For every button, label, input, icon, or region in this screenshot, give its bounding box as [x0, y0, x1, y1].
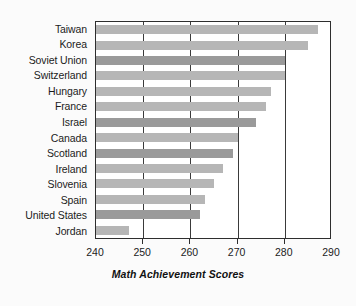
category-label: Taiwan — [0, 21, 92, 37]
bar-row — [96, 37, 330, 52]
category-label: Soviet Union — [0, 52, 92, 68]
x-tick-label: 240 — [86, 246, 104, 258]
bar — [96, 118, 256, 127]
bar-row — [96, 84, 330, 99]
bar — [96, 41, 308, 50]
bar-row — [96, 161, 330, 176]
x-axis-tick-labels: 240250260270280290 — [0, 246, 356, 262]
category-axis-labels: TaiwanKoreaSoviet UnionSwitzerlandHungar… — [0, 21, 92, 239]
x-tick-label: 250 — [133, 246, 151, 258]
plot-area — [95, 21, 331, 239]
bar — [96, 133, 238, 142]
x-tick-label: 260 — [181, 246, 199, 258]
x-axis-title: Math Achievement Scores — [0, 268, 356, 280]
bar-row — [96, 53, 330, 68]
bar-chart-figure: TaiwanKoreaSoviet UnionSwitzerlandHungar… — [0, 0, 356, 306]
bar-row — [96, 130, 330, 145]
category-label: Hungary — [0, 83, 92, 99]
bar-row — [96, 115, 330, 130]
bar — [96, 210, 200, 219]
x-tick — [284, 239, 285, 244]
category-label: Korea — [0, 37, 92, 53]
category-label: France — [0, 99, 92, 115]
category-label: Slovenia — [0, 177, 92, 193]
bar — [96, 25, 318, 34]
x-tick — [237, 239, 238, 244]
bar — [96, 149, 233, 158]
bar — [96, 102, 266, 111]
bar-row — [96, 222, 330, 237]
x-tick-label: 280 — [275, 246, 293, 258]
category-label: Spain — [0, 192, 92, 208]
bar-row — [96, 99, 330, 114]
x-axis-ticks — [95, 239, 331, 244]
bar-row — [96, 192, 330, 207]
bar — [96, 226, 129, 235]
bar — [96, 56, 285, 65]
bar — [96, 71, 285, 80]
x-tick-label: 290 — [322, 246, 340, 258]
bar — [96, 179, 214, 188]
x-tick-label: 270 — [228, 246, 246, 258]
bar — [96, 195, 205, 204]
bar-row — [96, 145, 330, 160]
category-label: Jordan — [0, 224, 92, 240]
bar-row — [96, 176, 330, 191]
bar-row — [96, 22, 330, 37]
category-label: Scotland — [0, 146, 92, 162]
category-label: Ireland — [0, 161, 92, 177]
bar-row — [96, 207, 330, 222]
category-label: Israel — [0, 114, 92, 130]
category-label: United States — [0, 208, 92, 224]
bar-row — [96, 68, 330, 83]
bar — [96, 164, 223, 173]
category-label: Switzerland — [0, 68, 92, 84]
bar-series — [96, 22, 330, 238]
bar — [96, 87, 271, 96]
x-tick — [142, 239, 143, 244]
category-label: Canada — [0, 130, 92, 146]
x-tick — [189, 239, 190, 244]
